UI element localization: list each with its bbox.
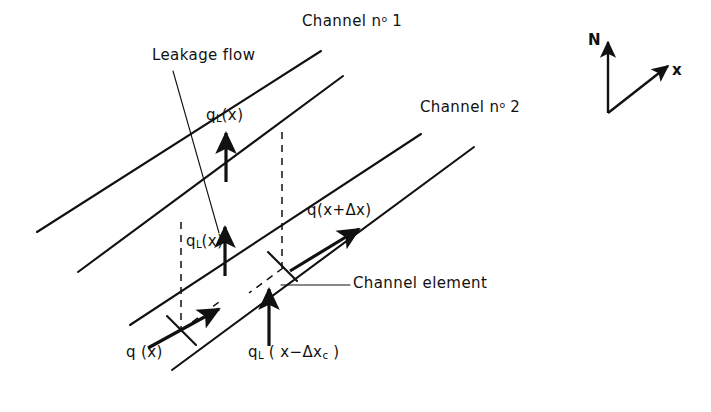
label-axis-x: x	[672, 63, 682, 78]
label-channel-1-text: Channel n	[302, 12, 381, 30]
label-q-x: q (x)	[126, 345, 163, 360]
label-q-l-bottom-arg-close: )	[328, 343, 339, 361]
axis-x-arrow	[608, 66, 668, 113]
label-q-l-lower: qL(x)	[186, 234, 223, 250]
label-channel-2-text: Channel n	[420, 98, 499, 116]
label-q-l-upper: qL(x)	[206, 108, 243, 124]
channel-wall-2-inner	[172, 147, 474, 370]
label-q-l-x-minus-delta-xc: qL ( x−Δxc )	[248, 345, 339, 361]
label-channel-element: Channel element	[353, 276, 487, 291]
label-q-l-bottom-arg-open: ( x−Δx	[264, 343, 323, 361]
dashed-link-cross-upper	[249, 268, 283, 293]
label-channel-2-number: 2	[510, 98, 520, 116]
label-q-l-upper-symbol: q	[206, 106, 216, 124]
label-q-l-upper-argument: (x)	[222, 106, 244, 124]
label-channel-1: Channel no 1	[302, 14, 402, 29]
label-channel-1-superscript: o	[381, 13, 387, 24]
leakage-flow-leader-line	[173, 71, 219, 233]
diagram-canvas: Channel no 1 Channel no 2 Leakage flow q…	[0, 0, 711, 412]
label-axis-north: N	[588, 33, 601, 48]
label-channel-2-superscript: o	[499, 99, 505, 110]
channel-wall-1-outer	[37, 51, 321, 232]
flow-arrow-q-x-plus-dx	[290, 229, 359, 271]
label-q-l-lower-argument: (x)	[202, 232, 224, 250]
label-leakage-flow: Leakage flow	[152, 48, 255, 63]
label-q-l-bottom-symbol: q	[248, 343, 258, 361]
label-q-x-plus-delta-x: q(x+Δx)	[307, 203, 372, 218]
label-q-l-lower-symbol: q	[186, 232, 196, 250]
channel-wall-2-outer	[130, 134, 421, 325]
label-channel-2: Channel no 2	[420, 100, 520, 115]
label-channel-1-number: 1	[392, 12, 402, 30]
